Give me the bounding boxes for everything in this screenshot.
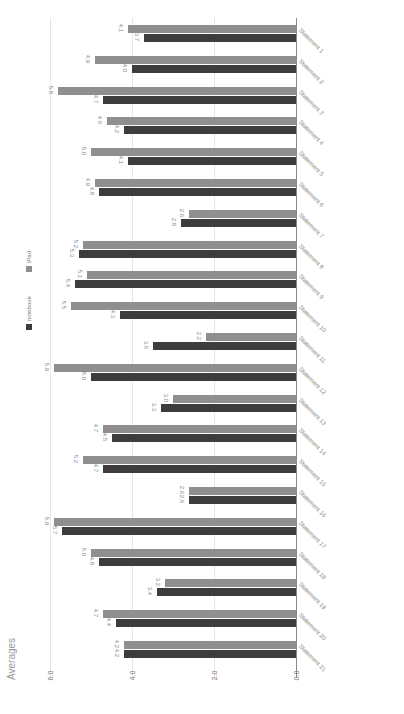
- bar-value-label: 4.7: [93, 421, 99, 435]
- legend-item-notebook: notebook: [26, 296, 32, 330]
- bar-value-label: 4.7: [93, 606, 99, 620]
- legend-swatch: [26, 266, 32, 272]
- category-label: Statement 15: [298, 458, 327, 487]
- bar-notebook: [128, 157, 296, 165]
- y-axis-title: Averages: [6, 638, 17, 680]
- bar-notebook: [181, 219, 296, 227]
- bar-value-label: 5.2: [73, 452, 79, 466]
- axis-tick-label: 4.0: [129, 666, 136, 686]
- category-label: Statement 11: [298, 335, 327, 364]
- category-label: Statement 9: [298, 273, 325, 300]
- bar-ipad: [189, 210, 296, 218]
- category-label: Statement 4: [298, 119, 325, 146]
- bar-value-label: 5.0: [81, 369, 87, 383]
- category-label: Statement 1: [298, 27, 325, 54]
- gridline: [296, 18, 297, 678]
- category-label: Statement 19: [298, 581, 327, 610]
- bar-value-label: 5.0: [81, 545, 87, 559]
- bar-value-label: 4.2: [114, 122, 120, 136]
- bar-notebook: [124, 126, 296, 134]
- bar-notebook: [144, 34, 296, 42]
- bar-value-label: 5.3: [69, 246, 75, 260]
- bar-ipad: [103, 610, 296, 618]
- bar-ipad: [95, 179, 296, 187]
- bar-value-label: 3.5: [143, 338, 149, 352]
- legend-label: iPad: [26, 251, 32, 263]
- bar-value-label: 4.2: [114, 646, 120, 660]
- bar-notebook: [75, 280, 296, 288]
- bar-value-label: 4.1: [118, 21, 124, 35]
- bar-value-label: 5.8: [48, 83, 54, 97]
- bar-ipad: [124, 641, 296, 649]
- category-label: Statement 5: [298, 150, 325, 177]
- category-label: Statement 13: [298, 397, 327, 426]
- bar-value-label: 4.0: [122, 61, 128, 75]
- category-label: Statement 18: [298, 551, 327, 580]
- category-label: Statement 20: [298, 612, 327, 641]
- bar-ipad: [83, 456, 296, 464]
- bar-notebook: [161, 404, 296, 412]
- category-label: Statement 7: [298, 212, 325, 239]
- legend-label: notebook: [26, 296, 32, 321]
- bar-value-label: 4.3: [110, 307, 116, 321]
- y-axis-title-wrap: Averages: [6, 680, 48, 691]
- axis-tick-label: 0.0: [293, 666, 300, 686]
- legend-item-ipad: iPad: [26, 251, 32, 272]
- bar-notebook: [124, 650, 296, 658]
- bar-notebook: [79, 250, 296, 258]
- bar-ipad: [107, 117, 296, 125]
- category-label: Statement 14: [298, 427, 327, 456]
- category-label: Statement 2: [298, 58, 325, 85]
- bar-value-label: 5.9: [44, 360, 50, 374]
- bar-notebook: [112, 434, 297, 442]
- category-label: Statement 8: [298, 243, 325, 270]
- bar-value-label: 3.2: [155, 575, 161, 589]
- category-label: Statement 6: [298, 181, 325, 208]
- bar-notebook: [189, 496, 296, 504]
- bar-value-label: 2.6: [179, 492, 185, 506]
- bar-value-label: 4.8: [89, 554, 95, 568]
- legend-swatch: [26, 324, 32, 330]
- bar-notebook: [153, 342, 297, 350]
- bar-ipad: [83, 241, 296, 249]
- bar-ipad: [173, 395, 296, 403]
- bar-value-label: 4.9: [85, 52, 91, 66]
- bar-value-label: 5.9: [44, 514, 50, 528]
- bar-notebook: [157, 588, 296, 596]
- bar-value-label: 2.6: [179, 206, 185, 220]
- bar-notebook: [103, 465, 296, 473]
- bar-ipad: [128, 25, 296, 33]
- bar-value-label: 4.7: [93, 92, 99, 106]
- category-label: Statement 16: [298, 489, 327, 518]
- bar-value-label: 3.0: [163, 391, 169, 405]
- bar-value-label: 3.3: [151, 400, 157, 414]
- bar-value-label: 2.8: [171, 215, 177, 229]
- gridline: [50, 18, 51, 678]
- category-label: Statement 3: [298, 89, 325, 116]
- bar-notebook: [120, 311, 296, 319]
- bar-value-label: 4.4: [106, 615, 112, 629]
- category-label: Statement 17: [298, 520, 327, 549]
- bar-value-label: 3.4: [147, 584, 153, 598]
- bar-ipad: [103, 425, 296, 433]
- bar-notebook: [99, 188, 296, 196]
- bar-value-label: 4.6: [97, 113, 103, 127]
- bar-ipad: [206, 333, 296, 341]
- bar-ipad: [91, 549, 296, 557]
- bar-notebook: [91, 373, 296, 381]
- bar-value-label: 5.0: [81, 144, 87, 158]
- bar-value-label: 4.1: [118, 153, 124, 167]
- bar-ipad: [165, 579, 296, 587]
- bar-ipad: [87, 271, 296, 279]
- bar-value-label: 5.4: [65, 276, 71, 290]
- bar-notebook: [62, 527, 296, 535]
- bar-value-label: 5.5: [61, 298, 67, 312]
- axis-tick-label: 2.0: [211, 666, 218, 686]
- bar-ipad: [54, 518, 296, 526]
- category-label: Statement 12: [298, 366, 327, 395]
- bar-value-label: 2.2: [196, 329, 202, 343]
- bar-ipad: [189, 487, 296, 495]
- bar-value-label: 4.7: [93, 461, 99, 475]
- category-label: Statement 21: [298, 643, 327, 672]
- bar-value-label: 4.8: [89, 184, 95, 198]
